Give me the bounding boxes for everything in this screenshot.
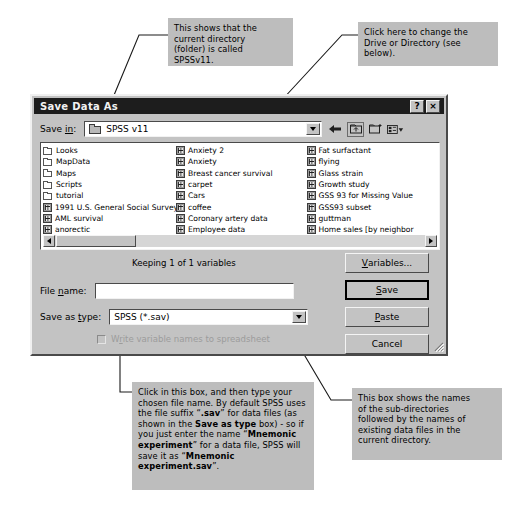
spss-data-file-icon bbox=[176, 157, 185, 166]
file-list-columns: LooksMapDataMapsScriptstutorial1991 U.S.… bbox=[43, 145, 437, 235]
file-list-item-label: Fat surfactant bbox=[319, 146, 372, 155]
save-as-type-combobox[interactable]: SPSS (*.sav) bbox=[109, 309, 308, 325]
back-icon[interactable] bbox=[327, 122, 344, 137]
annotation-line: Click here to change the bbox=[364, 27, 468, 37]
annotation-file-list-box: This box shows the names of the sub-dire… bbox=[352, 388, 502, 460]
file-list-item-label: Maps bbox=[56, 169, 76, 178]
folder-icon bbox=[43, 158, 53, 166]
file-list-item[interactable]: Growth study bbox=[307, 179, 438, 190]
save-as-type-value: SPSS (*.sav) bbox=[114, 312, 169, 322]
file-list-item[interactable]: 1991 U.S. General Social Survey bbox=[43, 201, 176, 212]
write-variable-names-checkbox-row[interactable]: Write variable names to spreadsheet bbox=[97, 334, 270, 344]
annotation-line: Drive or Directory (see bbox=[364, 38, 461, 48]
help-button[interactable]: ? bbox=[410, 100, 424, 113]
file-list-item[interactable]: Cars bbox=[176, 190, 307, 201]
write-variable-names-checkbox[interactable] bbox=[97, 335, 106, 344]
file-list-item[interactable]: AML survival bbox=[43, 213, 176, 224]
close-button[interactable]: × bbox=[426, 100, 440, 113]
file-list-item[interactable]: Employee data bbox=[176, 224, 307, 235]
file-list-item[interactable]: Maps bbox=[43, 168, 176, 179]
file-list-item[interactable]: tutorial bbox=[43, 190, 176, 201]
spss-data-file-icon bbox=[176, 146, 185, 155]
spss-data-file-icon bbox=[176, 180, 185, 189]
file-list-item[interactable]: GSS 93 for Missing Value bbox=[307, 190, 438, 201]
scroll-right-button[interactable] bbox=[425, 235, 437, 247]
file-list-item[interactable]: Home sales [by neighbor bbox=[307, 224, 438, 235]
save-in-combobox[interactable]: SPSS v11 bbox=[84, 121, 322, 137]
file-list-item[interactable]: Glass strain bbox=[307, 168, 438, 179]
cancel-button[interactable]: Cancel bbox=[345, 334, 429, 354]
file-list-item[interactable]: Anxiety 2 bbox=[176, 145, 307, 156]
spss-data-file-icon bbox=[307, 169, 316, 178]
file-list-item-label: GSS93 subset bbox=[319, 203, 372, 212]
scrollbar-thumb[interactable] bbox=[56, 235, 136, 247]
file-list-item-label: coffee bbox=[188, 203, 211, 212]
file-list-item-label: Cars bbox=[188, 191, 205, 200]
file-list-item[interactable]: Looks bbox=[43, 145, 176, 156]
save-as-type-dropdown-arrow[interactable] bbox=[292, 311, 306, 323]
file-list-item[interactable]: GSS93 subset bbox=[307, 201, 438, 212]
file-list-column: Fat surfactantflyingGlass strainGrowth s… bbox=[307, 145, 438, 235]
annotation-file-name-box: Click in this box, and then type your ch… bbox=[132, 382, 314, 490]
scroll-left-button[interactable] bbox=[43, 235, 55, 247]
save-in-row: Save in: SPSS v11 bbox=[40, 120, 440, 138]
file-list-item[interactable]: Scripts bbox=[43, 179, 176, 190]
new-folder-icon[interactable] bbox=[367, 122, 384, 137]
annotation-line: SPSSv11. bbox=[174, 55, 214, 65]
spss-data-file-icon bbox=[307, 203, 316, 212]
file-list-horizontal-scrollbar[interactable] bbox=[43, 235, 437, 247]
file-list-item[interactable]: Fat surfactant bbox=[307, 145, 438, 156]
spss-data-file-icon bbox=[176, 169, 185, 178]
save-in-dropdown-arrow[interactable] bbox=[306, 123, 320, 135]
annotation-line: This box shows the names bbox=[358, 393, 470, 403]
file-list-item[interactable]: coffee bbox=[176, 201, 307, 212]
spss-data-file-icon bbox=[176, 203, 185, 212]
dialog-title-bar[interactable]: Save Data As ? × bbox=[34, 98, 444, 114]
file-list-item[interactable]: MapData bbox=[43, 156, 176, 167]
resize-grip[interactable] bbox=[432, 340, 444, 352]
variables-button[interactable]: Variables... bbox=[345, 253, 429, 273]
file-name-row: File name: bbox=[40, 282, 310, 300]
save-as-type-row: Save as type: SPSS (*.sav) bbox=[40, 308, 310, 326]
file-list-item-label: Glass strain bbox=[319, 169, 364, 178]
annotation-line: existing data files in the bbox=[358, 425, 461, 435]
triangle-right-icon bbox=[429, 238, 433, 244]
file-list-box[interactable]: LooksMapDataMapsScriptstutorial1991 U.S.… bbox=[40, 142, 440, 250]
file-list-item[interactable]: carpet bbox=[176, 179, 307, 190]
file-list-item[interactable]: Anxiety bbox=[176, 156, 307, 167]
file-list-item[interactable]: Breast cancer survival bbox=[176, 168, 307, 179]
file-list-item[interactable]: anorectic bbox=[43, 224, 176, 235]
triangle-left-icon bbox=[47, 238, 51, 244]
chevron-down-icon bbox=[296, 315, 302, 319]
annotation-line: (folder) is called bbox=[174, 44, 243, 54]
keeping-variables-text: Keeping 1 of 1 variables bbox=[132, 258, 236, 268]
scrollbar-track[interactable] bbox=[136, 235, 425, 247]
spss-data-file-icon bbox=[307, 225, 316, 234]
file-list-column: LooksMapDataMapsScriptstutorial1991 U.S.… bbox=[43, 145, 176, 235]
file-name-input[interactable] bbox=[95, 283, 294, 299]
up-one-level-icon[interactable] bbox=[347, 122, 364, 137]
folder-icon bbox=[43, 181, 53, 189]
views-icon[interactable] bbox=[387, 122, 404, 137]
save-in-value: SPSS v11 bbox=[106, 124, 148, 134]
file-name-label: File name: bbox=[40, 286, 87, 296]
spss-data-file-icon bbox=[176, 214, 185, 223]
file-list-column: Anxiety 2AnxietyBreast cancer survivalca… bbox=[176, 145, 307, 235]
write-variable-names-label: Write variable names to spreadsheet bbox=[111, 334, 270, 344]
paste-button[interactable]: Paste bbox=[345, 307, 429, 327]
annotation-line: current directory. bbox=[358, 435, 431, 445]
annotation-text-run: ”. bbox=[212, 461, 219, 471]
save-button[interactable]: Save bbox=[345, 280, 429, 300]
spss-data-file-icon bbox=[176, 191, 185, 200]
file-list-item[interactable]: Coronary artery data bbox=[176, 213, 307, 224]
annotation-line: followed by the names of bbox=[358, 414, 465, 424]
annotation-current-directory: This shows that the current directory (f… bbox=[168, 18, 293, 66]
annotation-line: This shows that the bbox=[174, 23, 257, 33]
file-list-item[interactable]: guttman bbox=[307, 213, 438, 224]
annotation-text-run: Save as type bbox=[195, 419, 256, 429]
save-as-type-label: Save as type: bbox=[40, 312, 101, 322]
dialog-title: Save Data As bbox=[40, 101, 118, 112]
spss-data-file-icon bbox=[43, 214, 52, 223]
folder-icon bbox=[89, 124, 102, 134]
file-list-item[interactable]: flying bbox=[307, 156, 438, 167]
